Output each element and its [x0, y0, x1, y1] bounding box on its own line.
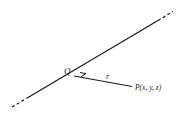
line-dashed-upper	[158, 12, 173, 21]
line-dashed-lower	[12, 98, 28, 108]
label-p: P(x, y, z)	[134, 83, 162, 92]
perpendicular-segment	[74, 76, 132, 87]
label-r: r	[106, 72, 110, 81]
diagram-canvas: Q r P(x, y, z)	[0, 0, 183, 118]
right-angle-marker	[80, 73, 86, 77]
label-q: Q	[64, 66, 71, 76]
